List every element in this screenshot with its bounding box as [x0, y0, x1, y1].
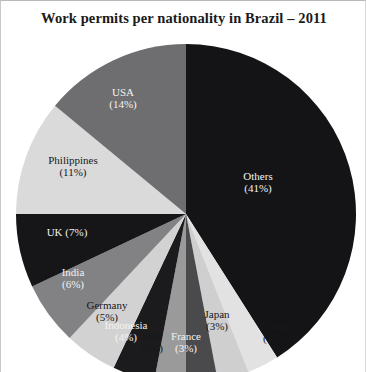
pie-slices: [16, 44, 356, 372]
pie-svg: [1, 1, 366, 372]
chart-page: Work permits per nationality in Brazil –…: [0, 0, 366, 372]
pie-chart: Others(41%)China(3%)Japan(3%)France(3%)I…: [1, 1, 366, 372]
